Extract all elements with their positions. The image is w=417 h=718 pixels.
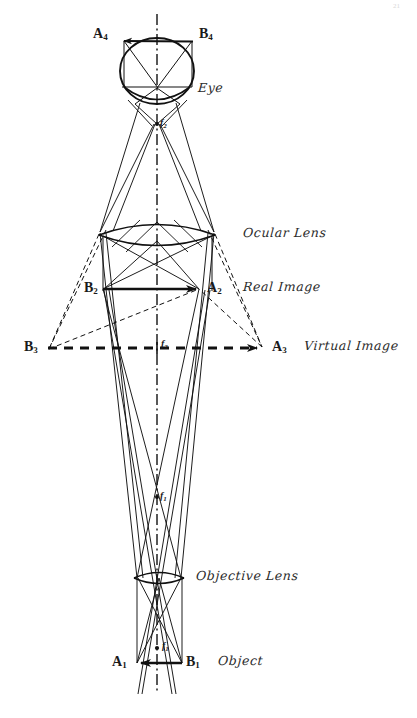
label-a4: A4 xyxy=(93,27,108,41)
focal-point-f1-upper-dot xyxy=(155,495,159,499)
eye-ray-cross-2 xyxy=(157,41,192,88)
label-b4: B4 xyxy=(199,27,213,41)
caption-eye: Eye xyxy=(198,82,224,95)
ray-u1 xyxy=(100,124,154,232)
oc-ray-1 xyxy=(103,236,199,289)
eye-ray-cross-1 xyxy=(124,41,158,88)
label-b3: B3 xyxy=(24,340,38,354)
label-a3: A3 xyxy=(272,340,287,354)
obj-pencil-4 xyxy=(138,290,205,694)
caption-real-image: Real Image xyxy=(243,281,322,294)
oc-ray-3 xyxy=(157,241,199,289)
caption-ocular-lens: Ocular Lens xyxy=(243,227,327,240)
label-b2: B2 xyxy=(84,281,98,295)
page-number: 21 xyxy=(393,2,400,10)
label-f1-upper: f1 xyxy=(160,491,167,501)
obj-in-ray-5 xyxy=(137,578,159,663)
retinal-image-arrow xyxy=(124,41,193,42)
ray-diagram-svg xyxy=(0,0,417,718)
focal-point-f2-eye-dot xyxy=(155,122,159,126)
focal-point-f1-lower-dot xyxy=(155,646,159,650)
caption-object: Object xyxy=(218,655,264,668)
label-f2-eye: f2 xyxy=(160,118,167,128)
figure-canvas: A4 B4 B2 A2 B3 A3 A1 B1 f2 f2 f1 f1 Eye … xyxy=(0,0,417,718)
ray-u4 xyxy=(159,124,201,231)
label-f1-lower: f1 xyxy=(162,641,169,651)
obj-ray-left-outer xyxy=(100,233,137,578)
caption-objective-lens: Objective Lens xyxy=(196,570,299,583)
obj-ray-left-inner xyxy=(106,233,143,578)
caption-virtual-image: Virtual Image xyxy=(304,340,400,353)
label-a1: A1 xyxy=(112,655,127,669)
objective-lens-upper-face xyxy=(134,573,184,579)
label-b1: B1 xyxy=(186,655,200,669)
label-f2-axis: f2 xyxy=(161,339,168,349)
obj-in-ray-4 xyxy=(138,578,182,663)
label-a2: A2 xyxy=(207,281,222,295)
obj-chief-ray-1 xyxy=(137,289,199,578)
ray-u2 xyxy=(113,124,155,231)
virtual-image-arrow-group xyxy=(48,342,257,354)
